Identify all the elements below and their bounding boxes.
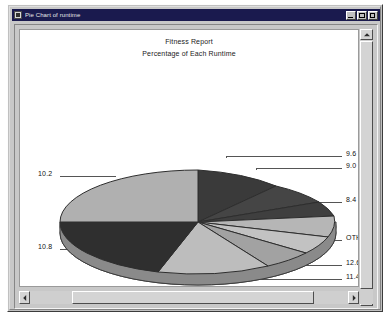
pie-label-value: 9.6 xyxy=(346,150,356,157)
window-inner-bevel: Pie Chart of runtime Fitness Report Perc… xyxy=(9,6,381,310)
caret-left-icon xyxy=(23,295,26,301)
client-area: Fitness Report Percentage of Each Runtim… xyxy=(14,24,378,309)
close-button[interactable] xyxy=(368,11,378,20)
caret-up-icon xyxy=(364,33,370,36)
pie-label-value: 11.4 xyxy=(346,273,359,280)
window-controls xyxy=(346,11,378,20)
window-title: Pie Chart of runtime xyxy=(25,11,346,19)
pie-chart-graphic xyxy=(20,30,359,287)
pie-label-other: OTHER xyxy=(346,234,359,241)
scroll-up-arrow[interactable] xyxy=(360,29,373,40)
pie-label-value: 10.2 xyxy=(38,170,52,177)
vertical-scrollbar[interactable] xyxy=(360,29,373,306)
pie-label-value: 10.8 xyxy=(38,243,52,250)
scroll-right-arrow[interactable] xyxy=(348,291,359,304)
chart-canvas: Fitness Report Percentage of Each Runtim… xyxy=(19,29,359,287)
pie-label-value: 8.4 xyxy=(346,196,356,203)
pie-label-value: 9.0 xyxy=(346,162,356,169)
caret-right-icon xyxy=(352,295,355,301)
scrollbar-corner xyxy=(360,291,373,304)
title-bar[interactable]: Pie Chart of runtime xyxy=(12,9,380,21)
pie-label-value: 12.6 xyxy=(346,259,359,266)
horizontal-scroll-thumb[interactable] xyxy=(72,291,314,304)
vertical-scroll-thumb[interactable] xyxy=(360,41,373,289)
pie-slices xyxy=(60,170,335,274)
horizontal-scrollbar[interactable] xyxy=(19,291,359,304)
maximize-button[interactable] xyxy=(357,11,367,20)
application-window: Pie Chart of runtime Fitness Report Perc… xyxy=(7,4,383,312)
chart-window-icon xyxy=(14,11,22,19)
minimize-button[interactable] xyxy=(346,11,356,20)
scroll-left-arrow[interactable] xyxy=(19,291,30,304)
